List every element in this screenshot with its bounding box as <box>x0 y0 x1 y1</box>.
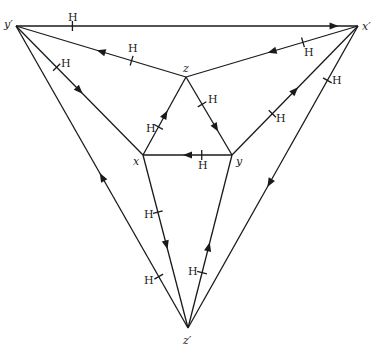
edge-line <box>186 77 232 155</box>
arrowhead-icon <box>183 151 192 158</box>
edge-h-label: H <box>146 122 156 135</box>
edge-xprime-zprime: H <box>188 26 358 328</box>
edge-h-label: H <box>304 46 314 59</box>
edge-h-label: H <box>188 265 198 278</box>
arrowhead-icon <box>330 22 339 29</box>
edge-yprime-xprime: H <box>16 11 358 31</box>
edge-h-label: H <box>332 74 342 87</box>
edges-layer: HHHHHHHHHHHH <box>16 11 358 328</box>
edge-x-z: H <box>143 77 186 155</box>
edge-x-zprime: H <box>143 155 188 328</box>
tick-mark <box>198 102 207 107</box>
vertex-label: z <box>182 62 189 75</box>
graph-diagram: HHHHHHHHHHHH y′x′z′zxy <box>0 0 374 347</box>
edge-h-label: H <box>144 208 154 221</box>
arrowhead-icon <box>268 47 278 54</box>
edge-h-label: H <box>128 42 138 55</box>
arrowhead-icon <box>97 49 107 56</box>
edge-h-label: H <box>68 11 78 24</box>
edge-h-label: H <box>61 57 71 70</box>
edge-h-label: H <box>144 274 154 287</box>
arrowhead-icon <box>211 122 219 132</box>
edge-h-label: H <box>276 112 286 125</box>
edge-zprime-yprime: H <box>16 26 188 328</box>
edge-y-x: H <box>143 150 232 172</box>
vertex-label: x′ <box>362 20 371 33</box>
vertex-label: y <box>235 155 243 168</box>
arrowhead-icon <box>160 110 167 120</box>
tick-mark <box>154 274 163 279</box>
vertex-label: x <box>133 155 140 168</box>
arrowhead-icon <box>267 177 275 187</box>
arrowhead-icon <box>162 240 169 250</box>
edge-h-label: H <box>198 159 208 172</box>
vertex-label: y′ <box>3 18 13 31</box>
edge-h-label: H <box>208 93 218 106</box>
edge-line <box>188 26 358 328</box>
edge-z-y: H <box>186 77 232 155</box>
arrowhead-icon <box>100 173 108 183</box>
tick-mark <box>323 78 332 83</box>
labels-layer: y′x′z′zxy <box>3 18 371 347</box>
vertex-label: z′ <box>182 334 192 347</box>
edge-zprime-y: H <box>188 155 232 328</box>
edge-line <box>188 155 232 328</box>
